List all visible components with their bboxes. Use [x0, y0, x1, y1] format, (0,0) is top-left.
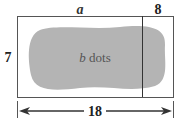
label-8: 8 — [155, 2, 162, 17]
label-18: 18 — [88, 104, 102, 119]
label-a: a — [77, 2, 84, 17]
label-7: 7 — [5, 50, 12, 65]
diagram: a 8 7 b dots 18 — [0, 0, 179, 125]
label-b-dots: b dots — [79, 50, 110, 65]
